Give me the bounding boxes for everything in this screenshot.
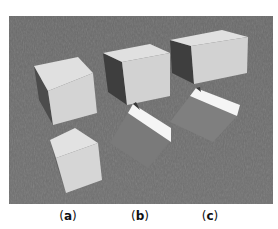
label-letter: b bbox=[136, 209, 145, 223]
label-paren-close: ) bbox=[144, 209, 149, 223]
panel-label-a: (a) bbox=[59, 209, 76, 223]
label-paren-close: ) bbox=[72, 209, 77, 223]
figure-image bbox=[9, 16, 273, 204]
label-letter: c bbox=[206, 209, 213, 223]
scene-render bbox=[9, 16, 273, 204]
label-letter: a bbox=[64, 209, 72, 223]
panel-label-c: (c) bbox=[202, 209, 219, 223]
panel-label-b: (b) bbox=[131, 209, 149, 223]
label-paren-close: ) bbox=[214, 209, 219, 223]
